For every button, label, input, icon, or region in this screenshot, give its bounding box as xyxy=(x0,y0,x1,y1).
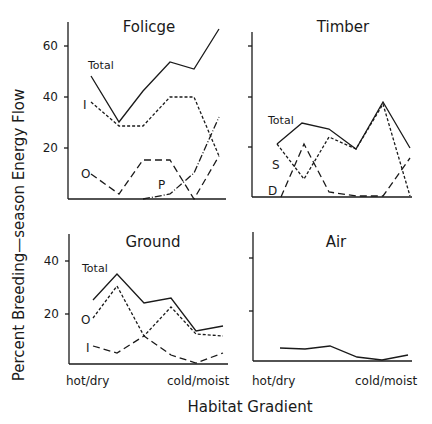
chart-figure: Percent Breeding—season Energy Flow Habi… xyxy=(0,0,432,424)
timber-label-s: S xyxy=(272,158,280,172)
timber-label-total: Total xyxy=(267,114,294,127)
ground-total-line xyxy=(93,274,223,331)
air-axes xyxy=(249,232,412,361)
ground-tick-20: 20 xyxy=(44,307,59,321)
timber-title: Timber xyxy=(316,18,370,36)
ground-o-line xyxy=(93,286,223,336)
foliage-label-total: Total xyxy=(87,59,114,72)
foliage-label-o: O xyxy=(81,167,90,181)
foliage-title: Folicge xyxy=(123,18,176,36)
foliage-label-p: P xyxy=(158,178,165,192)
foliage-o-line xyxy=(91,156,219,199)
y-axis-label: Percent Breeding—season Energy Flow xyxy=(10,89,28,382)
air-x-left-label: hot/dry xyxy=(252,374,295,388)
foliage-tick-20: 20 xyxy=(43,141,58,155)
x-axis-label: Habitat Gradient xyxy=(187,398,312,416)
air-x-right-label: cold/moist xyxy=(355,374,418,388)
ground-title: Ground xyxy=(125,233,180,251)
air-total-line xyxy=(280,346,408,360)
foliage-i-line xyxy=(91,97,219,156)
foliage-tick-40: 40 xyxy=(43,90,58,104)
ground-label-o: O xyxy=(81,313,90,327)
air-title: Air xyxy=(326,233,347,251)
ground-label-total: Total xyxy=(81,262,108,275)
timber-total-line xyxy=(277,102,410,149)
timber-label-d: D xyxy=(268,184,277,198)
ground-x-right-label: cold/moist xyxy=(167,374,230,388)
ground-tick-40: 40 xyxy=(44,254,59,268)
foliage-tick-60: 60 xyxy=(43,39,58,53)
foliage-total-line xyxy=(91,29,219,122)
timber-d-line xyxy=(281,144,410,197)
foliage-p-line xyxy=(143,117,219,199)
ground-i-line xyxy=(93,336,223,363)
ground-label-i: I xyxy=(86,341,90,355)
timber-s-line xyxy=(277,104,410,196)
ground-x-left-label: hot/dry xyxy=(66,374,109,388)
foliage-label-i: I xyxy=(83,98,87,112)
